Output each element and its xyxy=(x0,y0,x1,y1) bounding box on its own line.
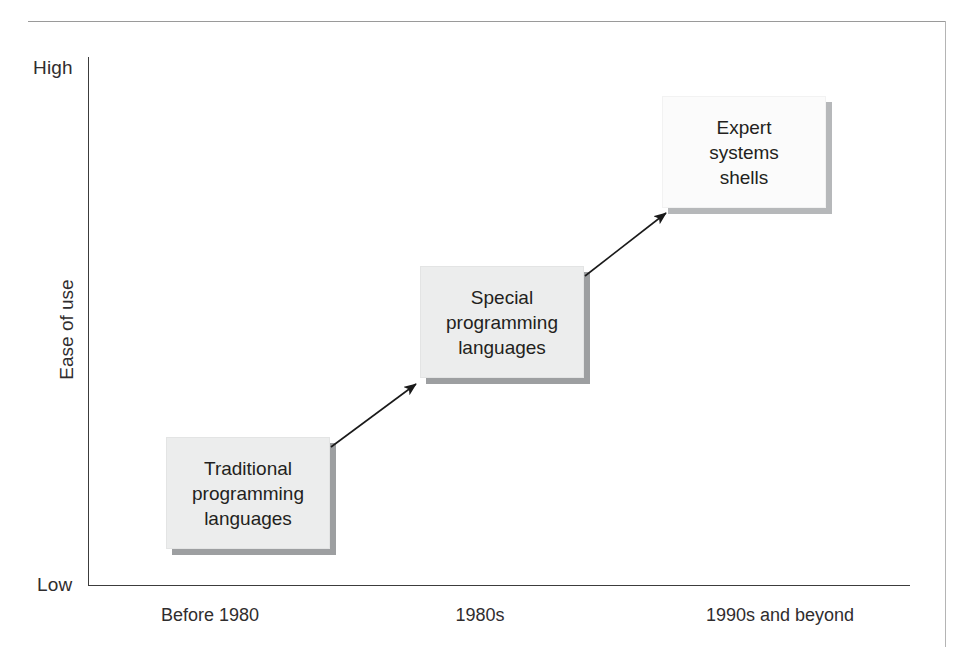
x-tick-label-before-1980: Before 1980 xyxy=(100,606,320,624)
step-box-expert-systems-shells: Expert systems shells xyxy=(662,96,826,208)
step-box-traditional-programming-languages: Traditional programming languages xyxy=(166,437,330,549)
step-box-label: Traditional programming languages xyxy=(184,456,312,531)
x-tick-label-1990s-and-beyond: 1990s and beyond xyxy=(650,606,910,624)
step-box-label: Expert systems shells xyxy=(701,115,787,190)
page-frame-right-rule xyxy=(945,21,946,647)
y-axis-low-label: Low xyxy=(37,575,72,594)
x-tick-label-1980s: 1980s xyxy=(380,606,580,624)
figure-root: High Low Ease of use Before 1980 1980s 1… xyxy=(0,0,969,647)
connector-arrow-special-to-expert xyxy=(585,213,666,276)
x-axis-line xyxy=(88,585,910,586)
y-axis-title: Ease of use xyxy=(57,250,76,410)
step-box-label: Special programming languages xyxy=(438,285,566,360)
y-axis-high-label: High xyxy=(33,58,73,77)
page-frame-top-rule xyxy=(28,21,945,22)
y-axis-line xyxy=(88,57,89,586)
connector-arrow-traditional-to-special xyxy=(331,384,416,447)
step-box-special-programming-languages: Special programming languages xyxy=(420,266,584,378)
